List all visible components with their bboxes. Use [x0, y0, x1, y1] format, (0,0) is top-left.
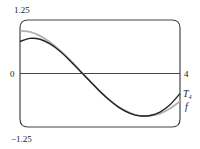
legend-label-f: f [185, 101, 189, 112]
x-tick-4: 4 [184, 69, 189, 79]
y-tick-bottom: −1.25 [11, 134, 32, 144]
series-t4-curve [20, 38, 180, 116]
y-tick-top: 1.25 [14, 5, 30, 15]
y-tick-zero: 0 [10, 69, 15, 79]
chart: 1.25 0 −1.25 4 T4 f [0, 0, 200, 149]
legend-t4-sub: 4 [189, 94, 192, 100]
legend-label-t4: T4 [183, 88, 192, 100]
